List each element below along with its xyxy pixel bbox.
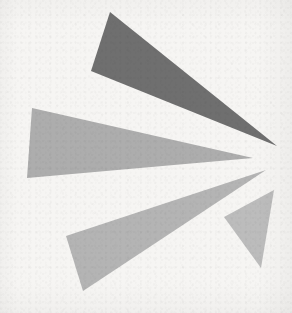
- triangle-burst-svg: [0, 0, 292, 313]
- artwork-canvas: [0, 0, 292, 313]
